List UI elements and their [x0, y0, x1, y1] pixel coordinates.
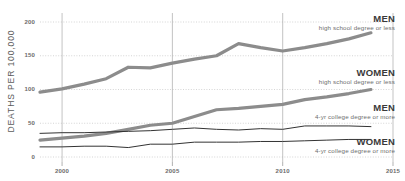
series-annotation: MENhigh school degree or less — [0, 14, 395, 32]
annotation-title: MEN — [0, 103, 395, 113]
data-series-group — [40, 33, 371, 148]
y-tick-label: 150 — [13, 52, 35, 58]
chart-container: DEATHS PER 100,000 050100150200 20002005… — [0, 0, 405, 181]
series-annotation: MEN4-yr college degree or more — [0, 103, 395, 121]
annotation-title: WOMEN — [0, 68, 395, 78]
y-tick-label: 100 — [13, 86, 35, 92]
series-annotation: WOMEN4-yr college degree or more — [0, 137, 395, 155]
annotation-subtitle: 4-yr college degree or more — [0, 147, 395, 155]
annotation-title: WOMEN — [0, 137, 395, 147]
annotation-subtitle: 4-yr college degree or more — [0, 113, 395, 121]
annotation-title: MEN — [0, 14, 395, 24]
series-annotation: WOMENhigh school degree or less — [0, 68, 395, 86]
x-tick-label: 2010 — [268, 168, 298, 174]
x-tick-label: 2005 — [157, 168, 187, 174]
x-tick-label: 2015 — [378, 168, 405, 174]
series-line-3 — [40, 126, 371, 133]
axis-tick-marks — [62, 162, 393, 166]
annotation-subtitle: high school degree or less — [0, 78, 395, 86]
annotation-subtitle: high school degree or less — [0, 24, 395, 32]
x-tick-label: 2000 — [47, 168, 77, 174]
